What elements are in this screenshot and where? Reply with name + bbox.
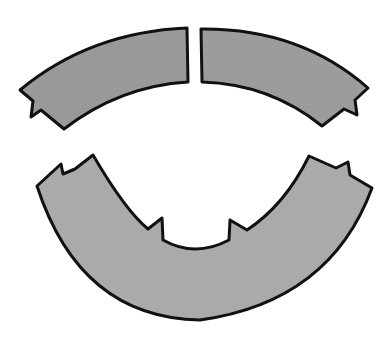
top-left-arc-piece <box>20 28 188 129</box>
top-right-arc-piece <box>201 29 368 126</box>
puzzle-illustration <box>0 0 389 339</box>
bottom-u-arc-piece <box>37 155 372 320</box>
